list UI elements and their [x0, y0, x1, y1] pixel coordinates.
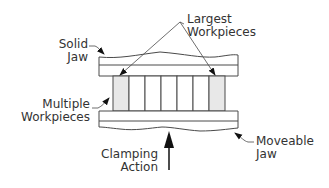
workpiece — [177, 76, 193, 111]
moveable-jaw-label: Moveable Jaw — [256, 135, 314, 161]
workpiece — [145, 76, 161, 111]
workpiece — [129, 76, 145, 111]
clamping-arrow — [164, 131, 174, 170]
multiple-workpieces-leader — [92, 98, 109, 108]
multiple-workpieces-label: Multiple Workpieces — [20, 98, 90, 124]
workpiece — [193, 76, 209, 111]
clamping-action-label: Clamping Action — [95, 148, 158, 174]
arrow-up-icon — [164, 131, 174, 148]
workpieces — [113, 76, 225, 111]
workpiece-largest-right — [209, 76, 225, 111]
moveable-jaw — [99, 111, 238, 131]
moveable-jaw-leader — [235, 133, 254, 142]
workpiece-largest-left — [113, 76, 129, 111]
solid-jaw-leader — [89, 46, 104, 54]
solid-jaw-label: Solid Jaw — [50, 38, 88, 64]
largest-workpieces-label: Largest Workpieces — [187, 13, 256, 39]
workpiece — [161, 76, 177, 111]
solid-jaw — [99, 52, 238, 76]
